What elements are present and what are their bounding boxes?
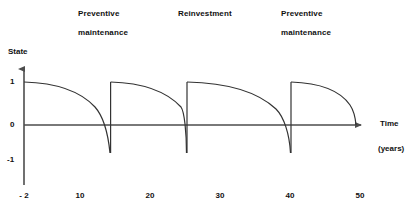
annotation-reinvestment: Reinvestment <box>178 10 232 18</box>
x-axis-subtitle: (years) <box>378 145 404 153</box>
y-axis-title: State <box>8 48 28 56</box>
x-tick-label-30: 30 <box>206 192 234 200</box>
y-tick-label-0: 0 <box>10 121 14 129</box>
chart-figure: Preventive maintenance Reinvestment Prev… <box>0 0 419 213</box>
x-tick-label-40: 40 <box>276 192 304 200</box>
state-curve-segment-2 <box>111 82 187 153</box>
x-tick-label-20: 20 <box>136 192 164 200</box>
annotation-preventive-maintenance-1-line1: Preventive <box>78 10 119 18</box>
state-curve-segment-1 <box>24 82 110 153</box>
annotation-preventive-maintenance-2-line2: maintenance <box>281 29 331 37</box>
y-tick-label-minus-1: -1 <box>7 156 14 164</box>
y-tick-label-1: 1 <box>10 78 14 86</box>
state-curve-segment-4 <box>291 82 356 125</box>
state-curve <box>24 82 356 153</box>
x-tick-label-minus-2: - 2 <box>10 192 38 200</box>
x-tick-label-10: 10 <box>66 192 94 200</box>
x-tick-label-50: 50 <box>346 192 374 200</box>
annotation-preventive-maintenance-2-line1: Preventive <box>281 10 322 18</box>
x-axis-title: Time <box>380 120 399 128</box>
state-curve-segment-3 <box>187 82 291 153</box>
chart-plot-area <box>0 0 419 213</box>
annotation-preventive-maintenance-1-line2: maintenance <box>78 29 128 37</box>
